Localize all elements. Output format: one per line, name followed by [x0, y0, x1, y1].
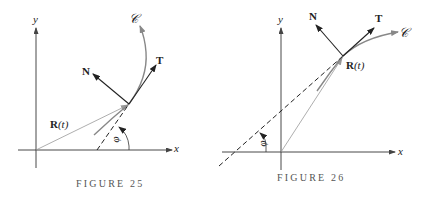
fig25-r-label: R(t) — [50, 119, 68, 130]
fig25-x-label: x — [174, 143, 179, 154]
fig26-r-label: R(t) — [346, 60, 364, 71]
fig26-phi-label: φ — [257, 140, 268, 146]
fig26-tangent-vector — [343, 28, 374, 56]
fig25-caption: FIGURE 25 — [76, 178, 144, 189]
figure-25 — [18, 26, 172, 168]
fig26-curve-label: 𝒞 — [399, 26, 408, 39]
figures-canvas — [0, 0, 422, 201]
fig25-curve — [94, 26, 146, 135]
fig25-normal-vector — [93, 74, 129, 104]
fig26-n-label: N — [309, 11, 317, 22]
fig26-x-label: x — [398, 146, 403, 157]
fig25-phi-label: φ — [110, 136, 121, 142]
fig25-y-label: y — [33, 14, 38, 25]
fig26-y-label: y — [278, 14, 283, 25]
figure-26 — [219, 25, 398, 170]
fig25-curve-label: 𝒞 — [129, 12, 138, 25]
fig25-t-label: T — [156, 55, 163, 66]
fig26-t-label: T — [375, 13, 382, 24]
fig26-caption: FIGURE 26 — [277, 172, 345, 183]
fig25-tangent-vector — [129, 65, 156, 104]
fig25-n-label: N — [82, 66, 90, 77]
fig26-position-vector — [281, 58, 342, 152]
fig26-normal-vector — [316, 25, 343, 56]
